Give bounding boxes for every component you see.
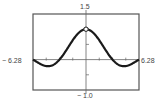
hole-marker <box>84 27 88 31</box>
x-max-label: 6.28 <box>141 57 155 65</box>
y-max-label: 1.5 <box>80 3 90 11</box>
x-min-label: − 6.28 <box>2 57 22 65</box>
y-min-label: − 1.0 <box>77 92 93 100</box>
graph-window: 1.5 − 1.0 − 6.28 6.28 <box>0 0 164 109</box>
